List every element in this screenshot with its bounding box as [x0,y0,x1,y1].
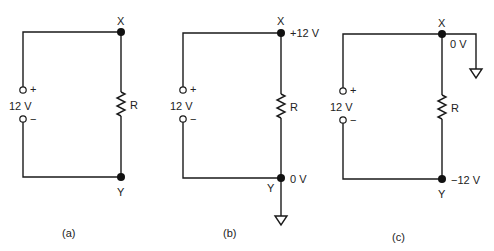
resistor-icon [438,95,446,119]
resistor-label: R [290,101,298,113]
top-wire [23,32,121,92]
ground-icon [470,69,482,78]
node-x-dot [117,28,125,36]
resistor-label: R [451,102,459,114]
node-y-voltage: 0 V [290,173,307,185]
node-y-label: Y [267,182,275,194]
panel-caption: (b) [223,227,236,239]
ground-icon [275,216,287,225]
node-x-voltage: +12 V [290,27,320,39]
resistor-icon [277,94,285,118]
node-y-label: Y [117,186,125,198]
negative-terminal-icon [20,116,26,122]
circuit-diagram: + 12 V − R X Y (a) + 12 V − R X +12 V Y … [0,0,494,251]
positive-terminal-icon [180,87,186,93]
panel-caption: (c) [392,231,405,243]
minus-sign: − [190,113,196,125]
bottom-wire [183,118,281,178]
minus-sign: − [350,114,356,126]
node-x-voltage: 0 V [450,38,467,50]
panel-caption: (a) [62,227,75,239]
node-y-dot [117,173,125,181]
bottom-wire [343,119,442,179]
node-x-dot [277,29,285,37]
panel-a: + 12 V − R X Y (a) [9,15,138,239]
node-x-label: X [277,15,285,27]
resistor-label: R [130,99,138,111]
source-voltage-label: 12 V [330,101,353,113]
negative-terminal-icon [340,117,346,123]
bottom-wire [23,116,121,177]
positive-terminal-icon [20,87,26,93]
top-wire [343,34,442,95]
panel-c: + 12 V − R X 0 V Y −12 V (c) [330,17,482,243]
source-voltage-label: 12 V [170,100,193,112]
resistor-icon [117,92,125,116]
positive-terminal-icon [340,88,346,94]
plus-sign: + [30,83,36,95]
node-y-dot [438,175,446,183]
node-x-label: X [117,15,125,27]
plus-sign: + [190,83,196,95]
node-y-voltage: −12 V [451,174,481,186]
panel-b: + 12 V − R X +12 V Y 0 V (b) [170,15,320,239]
node-y-label: Y [438,188,446,200]
node-x-dot [438,30,446,38]
node-x-label: X [438,17,446,29]
node-y-dot [277,174,285,182]
negative-terminal-icon [180,116,186,122]
plus-sign: + [350,84,356,96]
source-voltage-label: 12 V [9,100,32,112]
minus-sign: − [30,113,36,125]
top-wire [183,33,281,94]
